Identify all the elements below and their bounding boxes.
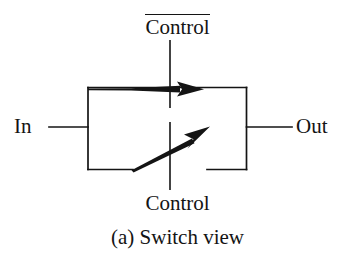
switch-view-figure: Control In Out Control (a) Switch view [0, 0, 355, 257]
control-label: Control [0, 193, 355, 214]
output-label: Out [296, 116, 328, 137]
top-direction-arrow [88, 82, 204, 97]
input-label: In [14, 116, 32, 137]
control-complement-label: Control [0, 14, 355, 38]
switch-blade-shaft [132, 139, 195, 173]
switch-body-rect [88, 88, 247, 170]
figure-caption: (a) Switch view [0, 227, 355, 248]
control-complement-text: Control [145, 14, 209, 38]
top-arrow-head [177, 82, 204, 97]
